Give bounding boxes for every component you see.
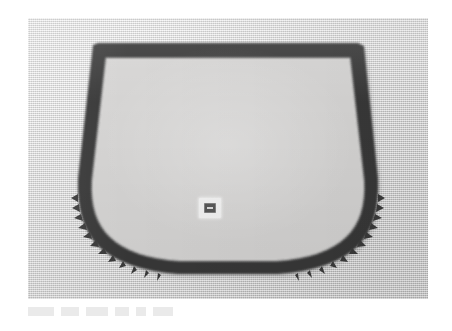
gasket-dark-band [28,18,428,299]
windshield-seal-gasket [28,18,428,299]
mounting-button-slot [207,207,213,209]
caption-smudge-segment [115,307,129,316]
caption-smudge-segment [61,307,79,316]
faint-caption-smudge [28,304,188,318]
scanned-photograph [28,18,428,299]
caption-smudge-segment [153,307,173,316]
caption-smudge-segment [86,307,108,316]
mounting-button-body [204,203,216,213]
page-canvas [0,0,452,331]
caption-smudge-segment [28,307,54,316]
caption-smudge-segment [136,307,146,316]
center-mounting-button [199,198,221,218]
